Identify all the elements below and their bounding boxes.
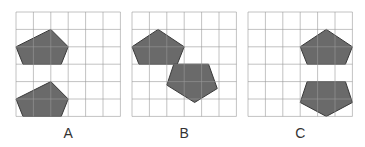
panel-label: C [240, 125, 360, 141]
